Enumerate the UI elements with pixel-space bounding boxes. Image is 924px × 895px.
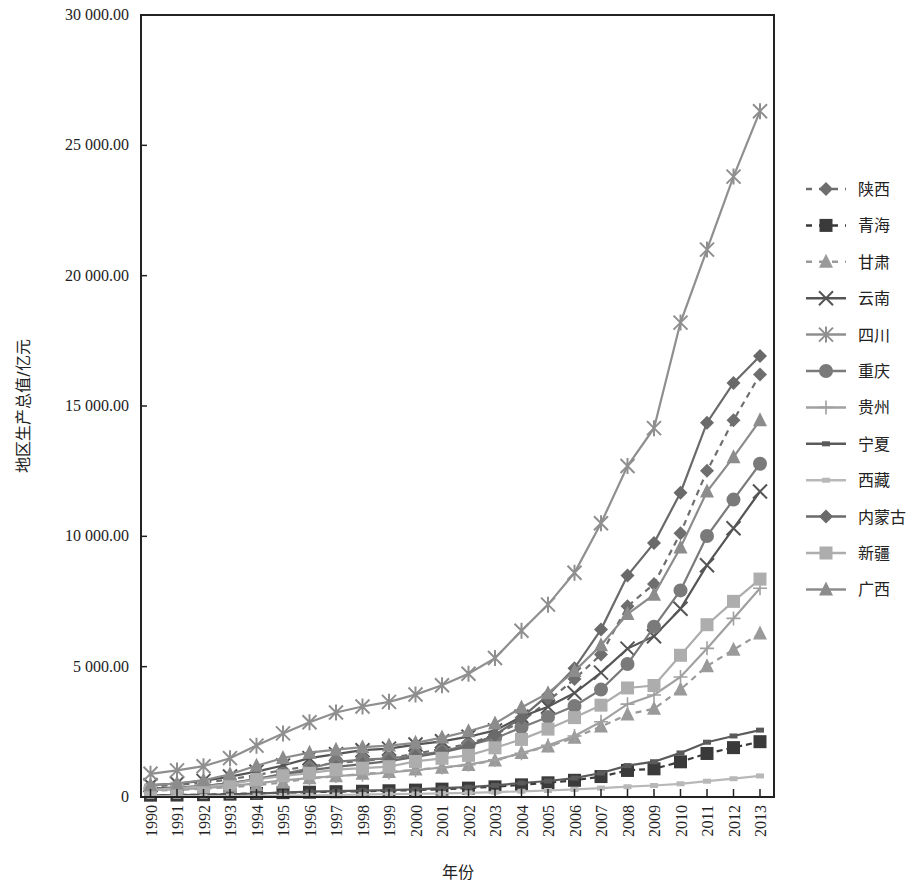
data-point-marker [700, 558, 714, 572]
data-point-marker [541, 710, 555, 724]
legend-item: 四川 [806, 326, 890, 345]
data-point-marker [703, 740, 711, 745]
data-point-marker [756, 728, 764, 733]
data-point-marker [753, 626, 767, 640]
data-point-marker [465, 785, 473, 790]
x-tick-label: 1991 [169, 805, 186, 837]
data-point-marker [330, 763, 343, 776]
data-point-marker [753, 103, 767, 119]
x-tick-label: 2005 [540, 805, 557, 837]
data-point-marker [674, 315, 688, 331]
data-point-marker [677, 781, 685, 786]
legend-label: 青海 [858, 216, 890, 235]
plot-area-frame [141, 15, 774, 797]
data-point-marker [754, 573, 767, 586]
data-point-marker [435, 677, 449, 693]
series-line [151, 375, 761, 787]
data-point-marker [650, 759, 658, 764]
legend-label: 陕西 [858, 180, 890, 199]
data-point-marker [753, 457, 767, 471]
y-tick-label: 20 000.00 [65, 267, 129, 284]
data-point-marker [488, 715, 502, 729]
x-tick-label: 2002 [461, 805, 478, 837]
data-point-marker [409, 755, 422, 768]
x-tick-label: 1995 [275, 805, 292, 837]
series-10 [144, 349, 768, 796]
data-point-marker [700, 416, 714, 430]
data-point-marker [542, 723, 555, 736]
legend-marker-icon [819, 510, 833, 524]
data-point-marker [647, 620, 661, 634]
x-tick-label: 1996 [302, 805, 319, 837]
x-tick-label: 2004 [514, 805, 531, 837]
legend-label: 甘肃 [858, 253, 890, 272]
legend-marker-icon [819, 364, 833, 378]
data-point-marker [700, 529, 714, 543]
x-tick-label: 2007 [593, 805, 610, 837]
data-point-marker [621, 458, 635, 474]
data-point-marker [648, 679, 661, 692]
series-line [151, 420, 761, 785]
data-point-marker [488, 650, 502, 666]
data-point-marker [515, 733, 528, 746]
data-point-marker [727, 642, 741, 656]
x-tick-label: 2012 [726, 805, 743, 837]
data-point-marker [409, 687, 423, 703]
data-point-marker [541, 597, 555, 613]
x-tick-label: 2003 [487, 805, 504, 837]
data-point-marker [594, 683, 608, 697]
data-point-marker [223, 750, 237, 766]
data-point-marker [621, 657, 635, 671]
data-point-marker [674, 583, 688, 597]
legend-label: 宁夏 [858, 435, 890, 454]
data-point-marker [624, 763, 632, 768]
data-point-marker [597, 771, 605, 776]
data-point-marker [700, 464, 714, 478]
data-point-marker [303, 714, 317, 730]
data-point-marker [276, 725, 290, 741]
legend: 陕西青海甘肃云南四川重庆贵州宁夏西藏内蒙古新疆广西 [806, 180, 906, 599]
legend-item: 陕西 [806, 180, 890, 199]
x-tick-label: 2010 [673, 805, 690, 837]
y-tick-label: 30 000.00 [65, 6, 129, 23]
legend-item: 西藏 [806, 471, 890, 490]
data-point-marker [544, 779, 552, 784]
y-tick-label: 5 000.00 [73, 658, 129, 675]
data-point-marker [647, 701, 661, 715]
data-point-marker [594, 666, 608, 680]
data-point-marker [753, 412, 767, 426]
data-point-marker [515, 623, 529, 639]
data-point-marker [756, 773, 764, 778]
series-5 [144, 103, 768, 782]
series-4 [144, 484, 768, 792]
legend-item: 宁夏 [806, 435, 890, 454]
x-tick-label: 2000 [408, 805, 425, 837]
data-point-marker [621, 642, 635, 656]
legend-item: 重庆 [806, 362, 890, 381]
legend-marker-icon [819, 400, 833, 414]
series-2 [144, 735, 767, 801]
legend-marker-icon [820, 219, 833, 232]
legend-label: 广西 [858, 580, 890, 599]
y-tick-label: 10 000.00 [65, 527, 129, 544]
legend-marker-icon [820, 547, 833, 560]
y-tick-label: 15 000.00 [65, 397, 129, 414]
legend-label: 西藏 [858, 471, 890, 490]
data-point-marker [727, 521, 741, 535]
y-axis-title: 地区生产总值/亿元 [14, 339, 33, 472]
legend-item: 云南 [806, 289, 890, 308]
series-line [151, 356, 761, 789]
data-point-marker [650, 783, 658, 788]
data-point-marker [568, 699, 582, 713]
data-point-marker [571, 776, 579, 781]
data-point-marker [277, 769, 290, 782]
data-point-marker [674, 602, 688, 616]
x-axis-title: 年份 [442, 863, 474, 882]
x-tick-label: 1998 [355, 805, 372, 837]
legend-label: 贵州 [858, 398, 890, 417]
data-point-marker [727, 169, 741, 185]
legend-item: 广西 [806, 580, 890, 599]
series-line [151, 111, 761, 774]
data-point-marker [727, 493, 741, 507]
data-point-marker [491, 783, 499, 788]
